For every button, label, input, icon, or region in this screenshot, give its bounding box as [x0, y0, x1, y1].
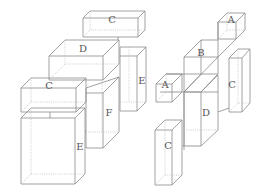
label-right-d: D	[202, 107, 210, 118]
label-left-e-cube: E	[76, 141, 83, 152]
label-left-d: D	[79, 43, 87, 54]
label-right-c-bottom: C	[164, 140, 172, 151]
left-structure: C D E C	[21, 11, 146, 184]
label-left-middle-c: C	[45, 80, 53, 91]
label-left-f: F	[106, 107, 113, 118]
box-right-top-a: A	[218, 13, 245, 39]
label-right-top-a: A	[226, 14, 235, 25]
box-left-middle-c: C	[21, 78, 86, 112]
box-left-top-c: C	[83, 11, 145, 37]
right-structure: A B A	[155, 13, 250, 185]
label-right-b: B	[197, 47, 204, 58]
label-left-top-c: C	[108, 14, 116, 25]
label-right-c-tall: C	[228, 79, 236, 90]
box-left-f: F	[86, 77, 119, 148]
box-right-c-bottom: C	[155, 120, 182, 185]
label-left-e-tall: E	[138, 75, 145, 86]
label-right-left-a: A	[160, 79, 169, 90]
box-right-c-tall: C	[228, 49, 250, 112]
box-left-d: D	[49, 40, 119, 80]
box-right-left-a: A	[156, 74, 182, 102]
box-left-e-cube: E	[21, 108, 85, 184]
box-left-e-tall: E	[120, 47, 146, 111]
block-diagram: C D E C	[0, 0, 257, 192]
box-right-d: D	[184, 75, 218, 146]
box-right-b: B	[160, 22, 236, 150]
